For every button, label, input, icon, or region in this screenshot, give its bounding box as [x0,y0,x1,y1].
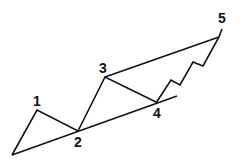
wave-label-3: 3 [99,60,107,76]
waves-1-to-4-path [12,77,156,155]
wave-label-2: 2 [74,134,82,150]
wave-label-1: 1 [33,93,41,109]
elliott-wave-diagram: 1 2 3 4 5 [0,0,241,167]
wave-label-4: 4 [153,105,161,121]
upper-trendline [105,37,219,77]
wave-label-5: 5 [218,10,226,26]
